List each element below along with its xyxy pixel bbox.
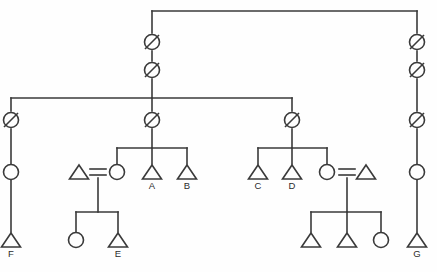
node-triangle-A[interactable] — [143, 165, 162, 179]
node-triangle-C[interactable] — [249, 165, 268, 179]
node-triangle-sp-r[interactable] — [357, 165, 376, 179]
node-label-D: D — [289, 180, 296, 191]
marriage-symbols — [90, 169, 355, 175]
node-label-E: E — [115, 248, 121, 259]
node-label-C: C — [255, 180, 262, 191]
kinship-label-layer: FGABCDE — [8, 180, 421, 259]
node-circle-c2-fem[interactable] — [320, 165, 335, 180]
node-triangle-sp-l[interactable] — [70, 165, 89, 179]
node-triangle-E[interactable] — [109, 233, 128, 247]
node-triangle-F[interactable] — [2, 233, 21, 247]
kinship-diagram-canvas: FGABCDE — [0, 0, 437, 272]
node-label-B: B — [184, 180, 190, 191]
node-circle-g2-fem[interactable] — [374, 233, 389, 248]
node-triangle-D[interactable] — [283, 165, 302, 179]
node-triangle-G[interactable] — [408, 233, 427, 247]
node-label-G: G — [413, 248, 420, 259]
node-label-A: A — [149, 180, 156, 191]
node-circle-l-fem[interactable] — [4, 165, 19, 180]
node-triangle-g2-m2[interactable] — [338, 233, 357, 247]
kinship-diagram-svg: FGABCDE — [0, 0, 437, 272]
node-triangle-g2-m1[interactable] — [302, 233, 321, 247]
node-triangle-B[interactable] — [178, 165, 197, 179]
node-circle-r-fem[interactable] — [410, 165, 425, 180]
node-label-F: F — [8, 248, 14, 259]
node-circle-g1-fem[interactable] — [69, 233, 84, 248]
node-circle-c1-fem[interactable] — [110, 165, 125, 180]
kinship-node-layer — [2, 35, 427, 248]
connector-lines — [11, 11, 417, 232]
